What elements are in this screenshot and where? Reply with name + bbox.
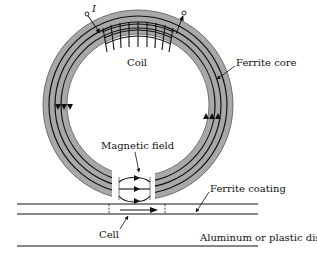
current-label: I: [91, 3, 97, 14]
ferrite-coating-label: Ferrite coating: [210, 183, 286, 194]
cell-label: Cell: [99, 229, 119, 240]
flux-arrows-right: [203, 113, 221, 119]
ferrite-core-label: Ferrite core: [236, 57, 297, 68]
magnetic-field-label: Magnetic field: [101, 140, 175, 151]
flux-arrows-left: [55, 104, 73, 110]
recording-head-diagram: I Coil Ferrite core Magnetic field Ferri…: [0, 0, 317, 263]
cell: [109, 204, 165, 214]
disk-label: Aluminum or plastic disk: [199, 232, 317, 243]
coil-label: Coil: [127, 57, 147, 68]
